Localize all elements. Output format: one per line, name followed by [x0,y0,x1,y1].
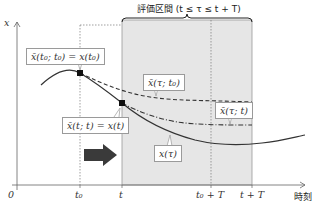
label-prediction-from-t0: x̄(τ; t₀) [143,74,185,91]
label-prediction-from-t: x̄(τ; t) [215,102,253,119]
x-axis-label: 時刻 [294,190,312,203]
tick-label-t: t [119,189,123,200]
tick-label-t-plus-T: t + T [240,189,264,200]
diagram-canvas [0,0,319,208]
label-initial-condition-t: x̄(t; t) = x(t) [62,117,129,134]
tick-label-t0-plus-T: t₀ + T [196,189,224,200]
y-axis-label: x [4,17,9,28]
tick-label-t0: t₀ [75,189,83,200]
tick-label-origin: 0 [8,189,14,200]
right-arrow-icon [84,144,117,166]
label-actual-trajectory: x(τ) [154,145,182,162]
point-t [119,100,125,106]
label-initial-condition-t0: x̄(t₀; t₀) = x(t₀) [26,48,105,65]
interval-title: 評価区間 (t ≤ τ ≤ t + T) [137,2,241,15]
pointer-t-label [114,108,120,117]
